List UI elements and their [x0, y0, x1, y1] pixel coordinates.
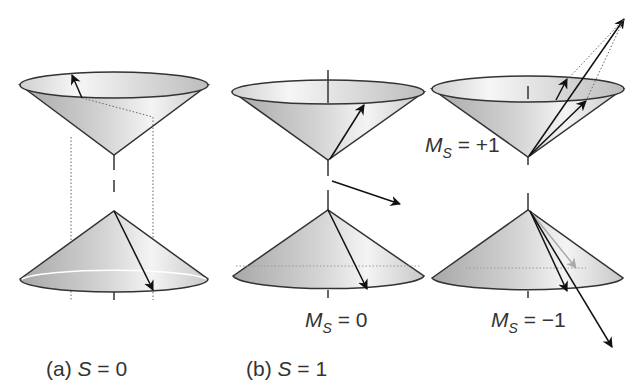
ms-value: = 0	[332, 308, 368, 331]
caption-prefix: (a)	[46, 357, 78, 380]
ms-sub: S	[323, 320, 332, 336]
ms-sub: S	[509, 320, 518, 336]
caption-prefix: (b)	[246, 357, 278, 380]
panel-b-caption: (b) S = 1	[246, 357, 327, 381]
ms-minus-one-label: MS = −1	[491, 308, 566, 332]
caption-eq: = 0	[92, 357, 128, 380]
ms-var: M	[305, 308, 323, 331]
ms-plus-one-label: MS = +1	[425, 133, 500, 157]
resultant-arrow-icon	[332, 181, 400, 204]
panel-a-cones	[20, 72, 208, 300]
panel-b-ms0-cones	[232, 70, 424, 298]
spin-vector-cones-diagram	[0, 0, 643, 392]
ms-zero-label: MS = 0	[305, 308, 367, 332]
caption-var: S	[78, 357, 92, 380]
ms-var: M	[491, 308, 509, 331]
caption-eq: = 1	[292, 357, 328, 380]
panel-b-ms1-cones	[432, 19, 624, 347]
lower-cone-a	[20, 211, 208, 300]
ms-value: = +1	[452, 133, 500, 156]
ms-value: = −1	[518, 308, 566, 331]
ms-sub: S	[443, 145, 452, 161]
caption-var: S	[278, 357, 292, 380]
ms-var: M	[425, 133, 443, 156]
panel-a-caption: (a) S = 0	[46, 357, 127, 381]
